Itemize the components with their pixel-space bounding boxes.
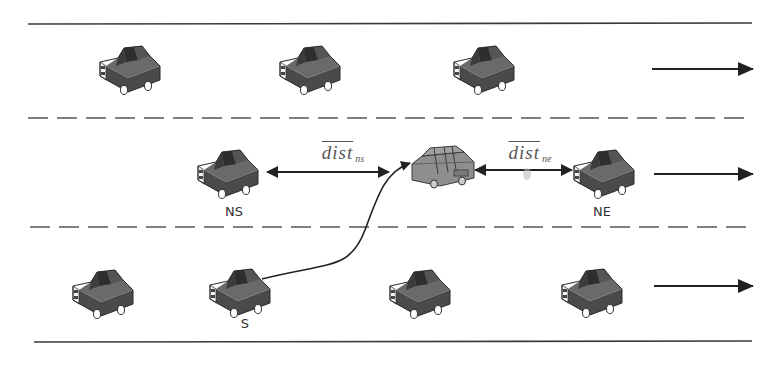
car-icon xyxy=(562,269,622,318)
car-ns-icon xyxy=(198,150,258,199)
dist-ns-sub: ns xyxy=(355,153,364,164)
lane-change-trajectory-icon xyxy=(262,163,410,279)
road-bottom-edge xyxy=(34,341,752,342)
label-ne: NE xyxy=(593,204,611,219)
dist-ns-label: distns xyxy=(322,142,364,164)
road-top-edge xyxy=(28,23,752,24)
car-s-icon xyxy=(210,269,270,318)
car-icon xyxy=(454,46,514,95)
car-icon xyxy=(100,46,160,95)
lane-change-diagram xyxy=(0,0,779,368)
car-ne-icon xyxy=(574,150,634,199)
car-icon xyxy=(280,46,340,95)
dist-ns-main: dist xyxy=(322,142,353,163)
target-car-icon xyxy=(412,146,474,188)
car-icon xyxy=(390,270,450,319)
label-ns: NS xyxy=(225,204,243,219)
dist-ne-sub: ne xyxy=(542,153,551,164)
dist-ne-label: distne xyxy=(509,142,552,164)
car-icon xyxy=(73,270,133,319)
dist-ne-main: dist xyxy=(509,142,540,163)
label-s: S xyxy=(241,316,249,331)
